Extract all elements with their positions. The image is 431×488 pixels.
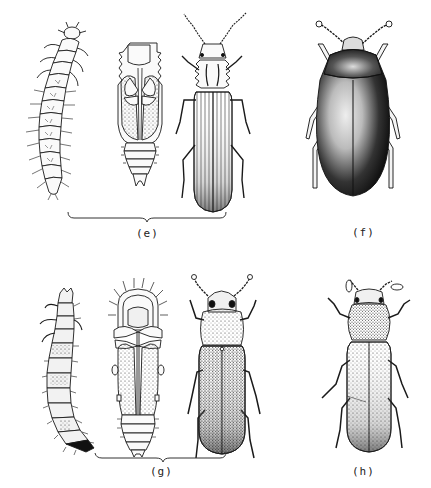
adult-f: [306, 21, 400, 196]
adult-h: [322, 280, 410, 452]
insect-illustration: [0, 0, 431, 488]
adult-g: [188, 275, 260, 459]
adult-e: [176, 13, 250, 212]
figure-label-h: (h): [352, 465, 375, 478]
larva-g: [40, 288, 94, 455]
larva-e: [26, 22, 88, 200]
figure-label-f: (f): [352, 226, 375, 239]
pupa-e: [118, 43, 162, 186]
figure-label-g: (g): [150, 465, 173, 478]
figure-label-e: (e): [136, 227, 159, 240]
bracket-g: [95, 452, 226, 462]
pupa-g: [108, 278, 168, 457]
bracket-e: [68, 212, 226, 222]
